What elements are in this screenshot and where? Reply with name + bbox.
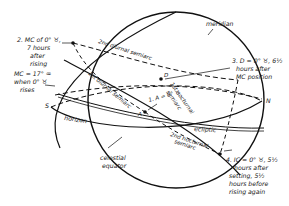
south-label: S (45, 102, 49, 109)
celestial-sphere-diagram: meridian horizon ecliptic celestial equa… (0, 0, 289, 206)
ic-point (218, 152, 222, 156)
note-mc-line3: rises (20, 86, 35, 93)
a-point (143, 110, 147, 114)
point-a-letter: A (137, 111, 142, 117)
ecliptic-label: ecliptic (194, 125, 217, 134)
second-nocturnal-semiarc (145, 112, 220, 154)
note-mc-line1: MC = 17° ♒ (14, 70, 52, 77)
note4-line1: 4. IC = 0° ♉, 5½ (226, 156, 278, 163)
note3-line3: MC position (236, 73, 272, 81)
note-mc-line2: when 0° ♉ (14, 78, 47, 85)
note2-line1: 2. MC of 0° ♉, (17, 36, 61, 43)
note4-line4: hours before (229, 180, 269, 187)
note4-line5: rising again (229, 188, 265, 196)
note4-line2: hours after (234, 164, 269, 171)
note2-line4: rising (30, 60, 47, 68)
note2-line3: after (30, 52, 45, 59)
d-point (159, 77, 163, 81)
meridian-label: meridian (206, 20, 234, 27)
horizon-label: horizon (64, 114, 88, 124)
note3-line1: 3. D = 0° ♉, 6½ (232, 57, 282, 64)
first-diurnal-label: 1st diurnal semiarc (87, 70, 132, 109)
note4-line3: setting, 5½ (229, 172, 264, 180)
celestial-equator-label-1: celestial (100, 154, 126, 161)
point-d-letter: D (164, 72, 169, 78)
note2-line2: 7 hours (27, 44, 51, 51)
north-label: N (266, 97, 271, 104)
note3-line2: hours after (236, 65, 271, 72)
celestial-equator-label-2: equator (102, 162, 127, 170)
second-diurnal-label: 2nd diurnal semiarc (98, 38, 153, 61)
